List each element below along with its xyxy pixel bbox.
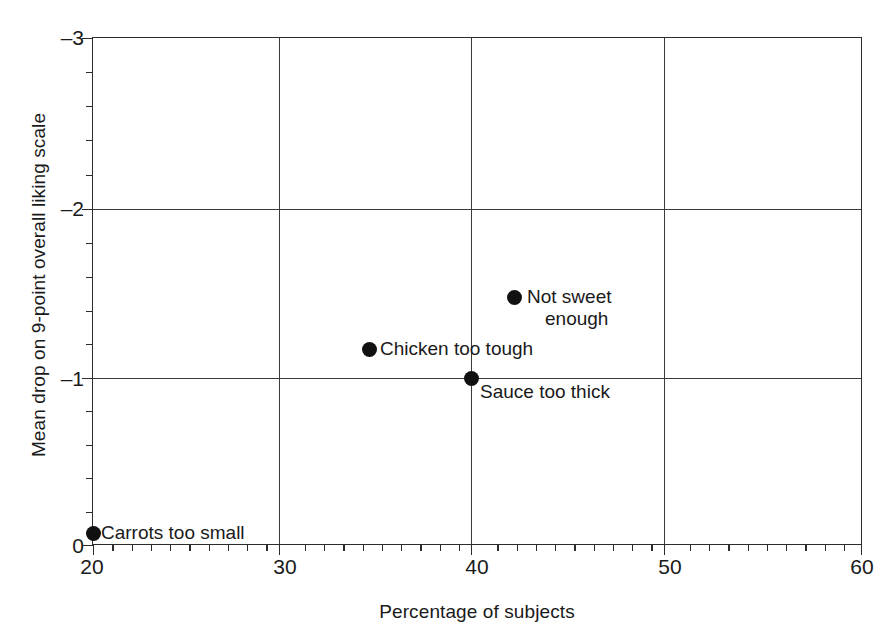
gridline-x-30 [279,38,280,544]
x-tick-label-30: 30 [250,556,320,577]
y-minor-tick [86,344,93,345]
x-tick-label-40: 40 [442,556,512,577]
scatter-chart-figure: Mean drop on 9-point overall liking scal… [0,0,883,643]
y-minor-tick [86,72,93,73]
x-tick-label-60: 60 [827,556,883,577]
x-minor-tick [324,544,325,551]
x-minor-tick [420,544,421,551]
x-minor-tick [382,544,383,551]
y-minor-tick [86,106,93,107]
x-minor-tick [151,544,152,551]
data-point-carrots-too-small[interactable] [86,526,101,541]
x-minor-tick [690,544,691,551]
gridline-x-50 [664,38,665,544]
x-minor-tick [613,544,614,551]
x-minor-tick [517,544,518,551]
x-major-tick-60 [861,544,862,555]
x-axis-title: Percentage of subjects [92,601,862,623]
y-minor-tick [86,411,93,412]
x-minor-tick [112,544,113,551]
x-major-tick-40 [471,544,472,555]
x-minor-tick [767,544,768,551]
x-major-tick-50 [664,544,665,555]
plot-area: Carrots too small Chicken too tough Sauc… [92,37,862,545]
x-minor-tick [440,544,441,551]
x-minor-tick [228,544,229,551]
y-minor-tick [86,243,93,244]
x-minor-tick [343,544,344,551]
x-minor-tick [786,544,787,551]
x-minor-tick [844,544,845,551]
data-point-sauce-too-thick[interactable] [464,371,479,386]
data-label-not-sweet-enough-line1: Not sweet [527,286,611,308]
x-minor-tick [247,544,248,551]
data-label-carrots-too-small: Carrots too small [101,522,245,544]
x-minor-tick [825,544,826,551]
x-minor-tick [189,544,190,551]
x-minor-tick [574,544,575,551]
x-major-tick-20 [93,544,94,555]
y-major-tick-zero [82,545,93,546]
y-minor-tick [86,478,93,479]
x-major-tick-30 [279,544,280,555]
gridline-x-40 [471,38,472,544]
x-minor-tick [132,544,133,551]
x-minor-tick [459,544,460,551]
x-minor-tick [555,544,556,551]
data-label-sauce-too-thick: Sauce too thick [480,381,610,403]
x-minor-tick [748,544,749,551]
x-minor-tick [305,544,306,551]
y-minor-tick [86,512,93,513]
y-tick-label-neg3: –3 [40,27,84,48]
x-minor-tick [594,544,595,551]
x-minor-tick [401,544,402,551]
x-minor-tick [728,544,729,551]
y-minor-tick [86,445,93,446]
y-minor-tick [86,175,93,176]
y-tick-label-neg1: –1 [40,368,84,389]
x-minor-tick [805,544,806,551]
data-label-chicken-too-tough: Chicken too tough [380,338,533,360]
x-minor-tick [266,544,267,551]
x-minor-tick [709,544,710,551]
y-tick-label-neg2: –2 [40,198,84,219]
y-minor-tick [86,140,93,141]
x-tick-label-50: 50 [635,556,705,577]
x-minor-tick [363,544,364,551]
data-point-chicken-too-tough[interactable] [362,342,377,357]
y-minor-tick [86,311,93,312]
y-minor-tick [86,277,93,278]
y-axis-tick-labels: –3 –2 –1 0 [38,0,84,643]
y-major-tick-neg1 [82,378,93,379]
x-minor-tick [632,544,633,551]
y-tick-label-zero: 0 [40,535,84,556]
x-minor-tick [170,544,171,551]
x-minor-tick [209,544,210,551]
y-major-tick-neg3 [82,38,93,39]
x-tick-label-20: 20 [57,556,127,577]
y-major-tick-neg2 [82,209,93,210]
gridline-y-neg2 [93,209,861,210]
data-point-not-sweet-enough[interactable] [507,290,522,305]
data-label-not-sweet-enough-line2: enough [545,308,608,330]
x-minor-tick [651,544,652,551]
x-minor-tick [497,544,498,551]
x-minor-tick [536,544,537,551]
